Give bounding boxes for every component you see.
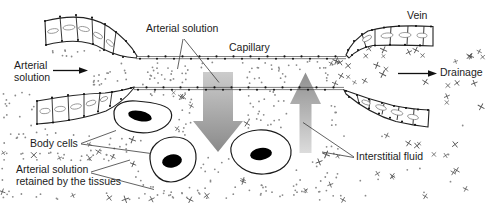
junction-dot bbox=[125, 40, 127, 42]
solution-dot bbox=[206, 197, 208, 199]
solution-dot bbox=[246, 77, 248, 79]
interstitial-cross-mark bbox=[362, 78, 368, 84]
junction-dot bbox=[381, 102, 383, 104]
solution-dot bbox=[288, 64, 290, 66]
body-cell-2 bbox=[150, 137, 196, 182]
arteriole-wall-top bbox=[45, 15, 137, 58]
interstitial-cross-mark bbox=[130, 161, 136, 167]
junction-dot bbox=[52, 121, 54, 123]
solution-dot bbox=[211, 62, 213, 64]
junction-dot bbox=[207, 58, 209, 60]
solution-dot bbox=[256, 118, 258, 120]
junction-dot bbox=[258, 58, 260, 60]
junction-dot bbox=[121, 89, 123, 91]
solution-dot bbox=[317, 61, 319, 63]
solution-dot bbox=[272, 91, 274, 93]
solution-dot bbox=[296, 169, 298, 171]
interstitial-cross-mark bbox=[443, 153, 448, 158]
junction-dot bbox=[256, 89, 258, 91]
junction-dot bbox=[171, 89, 173, 91]
capillary-exchange-diagram: Arterial solution Capillary Vein Arteria… bbox=[0, 0, 491, 207]
junction-dot bbox=[162, 86, 164, 88]
solution-dot bbox=[170, 73, 172, 75]
junction-dot bbox=[324, 89, 326, 91]
solution-dot bbox=[326, 77, 328, 79]
solution-dot bbox=[283, 100, 285, 102]
solution-dot bbox=[263, 114, 265, 116]
solution-dot bbox=[365, 195, 367, 197]
solution-dot bbox=[94, 84, 96, 86]
solution-dot bbox=[261, 82, 263, 84]
solution-dot bbox=[6, 193, 8, 195]
solution-dot bbox=[312, 161, 314, 163]
interstitial-cross-mark bbox=[187, 197, 193, 203]
interstitial-cross-mark bbox=[452, 141, 458, 147]
interstitial-cross-mark bbox=[57, 156, 62, 161]
solution-dot bbox=[280, 127, 282, 129]
solution-dot bbox=[296, 191, 298, 193]
junction-dot bbox=[401, 120, 403, 122]
label-body-cells: Body cells bbox=[30, 138, 78, 150]
solution-dot bbox=[184, 92, 186, 94]
solution-dot bbox=[284, 81, 286, 83]
junction-dot bbox=[67, 94, 69, 96]
solution-dot bbox=[3, 197, 5, 199]
interstitial-cross-mark bbox=[380, 46, 387, 53]
solution-dot bbox=[270, 124, 272, 126]
junction-dot bbox=[361, 33, 363, 35]
solution-dot bbox=[261, 184, 263, 186]
label-vein: Vein bbox=[407, 10, 427, 22]
solution-dot bbox=[278, 119, 280, 121]
junction-dot bbox=[281, 86, 283, 88]
solution-dot bbox=[36, 196, 38, 198]
solution-dot bbox=[335, 124, 337, 126]
interstitial-cross-mark bbox=[405, 140, 411, 146]
junction-dot bbox=[154, 89, 156, 91]
junction-dot bbox=[298, 86, 300, 88]
junction-dot bbox=[122, 56, 124, 58]
label-line: retained by the tissues bbox=[16, 176, 121, 188]
interstitial-cross-mark bbox=[420, 53, 425, 58]
junction-dot bbox=[389, 117, 391, 119]
junction-dot bbox=[137, 89, 139, 91]
solution-dot bbox=[190, 99, 192, 101]
solution-dot bbox=[163, 192, 165, 194]
junction-dot bbox=[188, 89, 190, 91]
junction-dot bbox=[419, 44, 421, 46]
interstitial-cross-mark bbox=[345, 63, 351, 69]
solution-dot bbox=[31, 109, 33, 111]
interstitial-cross-mark bbox=[1, 151, 5, 155]
solution-dot bbox=[71, 56, 73, 58]
solution-dot bbox=[105, 78, 107, 80]
solution-dot bbox=[343, 135, 345, 137]
solution-dot bbox=[309, 60, 311, 62]
junction-dot bbox=[196, 86, 198, 88]
junction-dot bbox=[374, 44, 376, 46]
junction-dot bbox=[75, 14, 77, 16]
junction-dot bbox=[36, 100, 38, 102]
junction-dot bbox=[417, 108, 419, 110]
solution-dot bbox=[274, 94, 276, 96]
solution-dot bbox=[19, 116, 21, 118]
solution-dot bbox=[278, 100, 280, 102]
solution-dot bbox=[93, 75, 95, 77]
solution-dot bbox=[170, 191, 172, 193]
junction-dot bbox=[61, 40, 63, 42]
interstitial-cross-mark bbox=[327, 182, 333, 188]
solution-dot bbox=[282, 194, 284, 196]
solution-dot bbox=[326, 146, 328, 148]
solution-dot bbox=[55, 132, 57, 134]
solution-dot bbox=[326, 80, 328, 82]
solution-dot bbox=[248, 95, 250, 97]
solution-dot bbox=[99, 84, 101, 86]
interstitial-cross-mark bbox=[375, 171, 380, 176]
interstitial-cross-mark bbox=[406, 49, 412, 55]
solution-dot bbox=[97, 80, 99, 82]
junction-dot bbox=[181, 55, 183, 57]
solution-dot bbox=[331, 146, 333, 148]
junction-dot bbox=[389, 44, 391, 46]
interstitial-cross-mark bbox=[149, 196, 155, 202]
solution-dot bbox=[197, 190, 199, 192]
solution-dot bbox=[1, 168, 3, 170]
solution-dot bbox=[304, 191, 306, 193]
